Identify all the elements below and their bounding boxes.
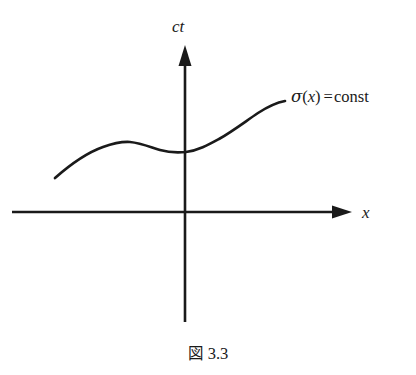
sigma-symbol: σ bbox=[291, 87, 302, 106]
spacetime-diagram: ct x bbox=[0, 0, 416, 375]
curve-annotation-label: σ(x)=const bbox=[291, 89, 369, 106]
const-text: const bbox=[334, 87, 369, 106]
ct-axis-label: ct bbox=[172, 17, 186, 36]
sigma-const-curve bbox=[55, 101, 285, 178]
figure-caption: 図3.3 bbox=[0, 341, 416, 364]
equals-sign: = bbox=[324, 87, 333, 106]
caption-kanji: 図 bbox=[188, 345, 204, 363]
ct-axis-arrowhead bbox=[179, 45, 192, 66]
x-axis-label: x bbox=[361, 203, 370, 222]
close-paren: ) bbox=[315, 87, 321, 106]
figure-container: ct x σ(x)=const 図3.3 bbox=[0, 0, 416, 375]
x-axis-arrowhead bbox=[332, 206, 352, 219]
caption-number: 3.3 bbox=[208, 344, 229, 363]
argument-x: x bbox=[308, 87, 315, 106]
